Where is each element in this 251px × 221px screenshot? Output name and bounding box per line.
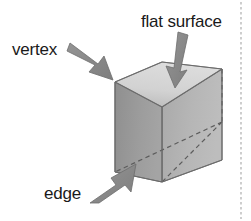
vertex-arrow-icon [67,43,113,80]
edge-arrow-icon [90,164,136,203]
geometry-diagram: vertex flat surface edge [0,0,251,221]
cube-diagram-canvas: vertex flat surface edge [0,0,251,221]
vertex-label: vertex [12,40,58,59]
cube-solid [115,62,222,182]
flat-surface-label: flat surface [141,12,222,31]
edge-label: edge [44,184,81,203]
annotation-vertex: vertex [12,40,113,80]
